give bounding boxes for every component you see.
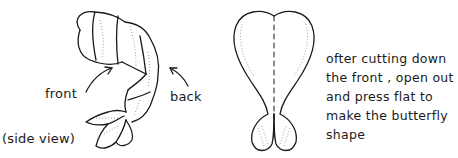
description-line: the front , open out: [326, 68, 454, 87]
front-arrow: [86, 68, 112, 92]
description-line: ofter cutting down: [326, 49, 454, 68]
shrimp-side-view-illustration: [77, 12, 188, 148]
butterfly-description: ofter cutting down the front , open out …: [326, 49, 454, 144]
description-line: and press flat to: [326, 87, 454, 106]
butterfly-shape-illustration: [234, 11, 314, 150]
back-arrow: [170, 68, 188, 86]
back-label: back: [170, 89, 202, 104]
front-label: front: [45, 86, 77, 101]
description-line: make the butterfly: [326, 106, 454, 125]
side-view-caption: (side view): [2, 131, 75, 146]
description-line: shape: [326, 125, 454, 144]
